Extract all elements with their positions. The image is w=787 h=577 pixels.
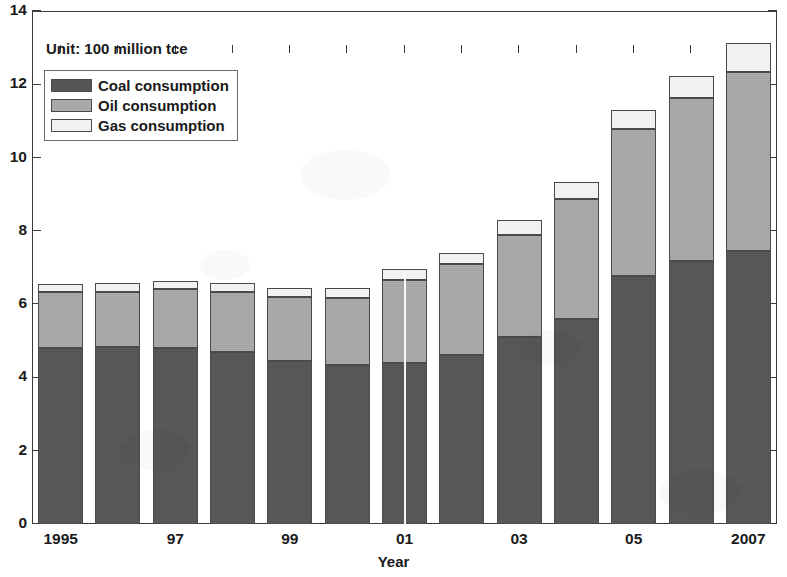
- bar-segment-gas: [497, 220, 542, 235]
- bar-segment-oil: [38, 292, 83, 348]
- bar-segment-gas: [267, 288, 312, 297]
- bar-2006: [669, 76, 714, 524]
- bar-segment-coal: [325, 365, 370, 524]
- legend-swatch-coal: [51, 79, 92, 92]
- legend-label-coal: Coal consumption: [98, 77, 229, 94]
- bar-segment-coal: [95, 347, 140, 524]
- bar-segment-coal: [669, 261, 714, 524]
- bar-segment-oil: [95, 292, 140, 347]
- bar-segment-gas: [439, 253, 484, 264]
- bar-segment-gas: [325, 288, 370, 297]
- bar-segment-gas: [611, 110, 656, 129]
- bar-1998: [210, 283, 255, 524]
- legend-swatch-gas: [51, 119, 92, 132]
- stacked-bar-chart: 02468101214 199597990103052007 Year Unit…: [0, 0, 787, 577]
- bar-segment-coal: [554, 319, 599, 524]
- bar-1995: [38, 284, 83, 524]
- bar-segment-gas: [726, 43, 771, 72]
- legend-item-oil: Oil consumption: [51, 95, 229, 115]
- bar-segment-coal: [267, 361, 312, 524]
- legend-swatch-oil: [51, 99, 92, 112]
- bar-2005: [611, 110, 656, 524]
- bar-segment-coal: [153, 348, 198, 524]
- bar-segment-coal: [497, 337, 542, 524]
- bar-segment-oil: [325, 298, 370, 366]
- bar-segment-oil: [439, 264, 484, 356]
- scan-artifact-line: [404, 273, 406, 524]
- legend-label-gas: Gas consumption: [98, 117, 225, 134]
- bar-segment-oil: [267, 297, 312, 360]
- unit-caption: Unit: 100 million tce: [46, 40, 188, 57]
- bar-segment-gas: [210, 283, 255, 292]
- bar-segment-oil: [726, 72, 771, 251]
- bar-segment-coal: [439, 355, 484, 524]
- bar-1999: [267, 288, 312, 524]
- bar-segment-oil: [210, 292, 255, 352]
- bar-segment-oil: [153, 289, 198, 348]
- bar-segment-oil: [669, 98, 714, 261]
- bar-segment-gas: [38, 284, 83, 293]
- bar-segment-coal: [611, 276, 656, 524]
- legend-item-coal: Coal consumption: [51, 75, 229, 95]
- bar-segment-gas: [153, 281, 198, 290]
- bar-1996: [95, 283, 140, 524]
- bar-segment-coal: [726, 251, 771, 524]
- bar-2007: [726, 43, 771, 524]
- legend-item-gas: Gas consumption: [51, 115, 229, 135]
- legend: Coal consumption Oil consumption Gas con…: [44, 70, 238, 141]
- bar-2000: [325, 288, 370, 524]
- bar-segment-oil: [554, 199, 599, 319]
- legend-label-oil: Oil consumption: [98, 97, 216, 114]
- bar-1997: [153, 281, 198, 524]
- bar-2004: [554, 182, 599, 524]
- bar-2002: [439, 253, 484, 524]
- bar-segment-oil: [611, 129, 656, 276]
- bar-segment-coal: [210, 352, 255, 524]
- bar-segment-gas: [554, 182, 599, 198]
- bar-2003: [497, 220, 542, 524]
- bar-segment-coal: [38, 348, 83, 524]
- bar-segment-oil: [497, 235, 542, 338]
- bar-segment-gas: [669, 76, 714, 98]
- bar-segment-gas: [95, 283, 140, 292]
